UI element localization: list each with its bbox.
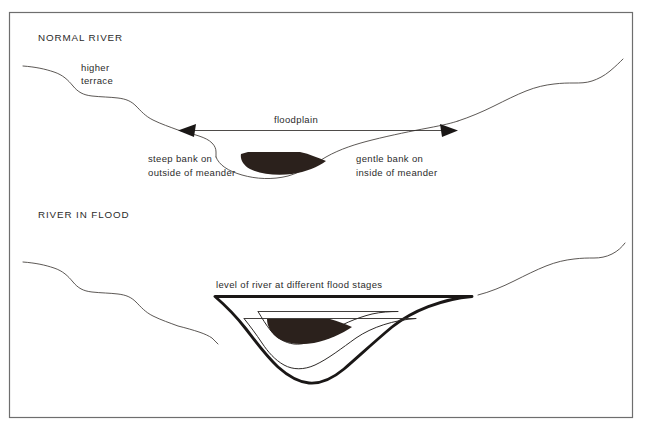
label-higher-terrace-line1: higher: [81, 62, 110, 73]
terrain-right-slope-normal: [458, 59, 623, 121]
label-gentle-bank-line2: inside of meander: [356, 167, 437, 178]
floodplain-extent-arrow: [178, 124, 458, 137]
arrow-head-left-icon: [178, 124, 196, 137]
flood-channel-peak-outline: [215, 297, 472, 384]
heading-river-in-flood: RIVER IN FLOOD: [38, 209, 130, 220]
panel-normal-river: NORMAL RIVER higher terrace floodplain s…: [23, 32, 623, 179]
panel-river-in-flood: RIVER IN FLOOD level of river at differe…: [23, 209, 625, 383]
label-gentle-bank-line1: gentle bank on: [356, 153, 423, 164]
label-higher-terrace-line2: terrace: [81, 75, 113, 86]
label-flood-stages: level of river at different flood stages: [216, 279, 382, 290]
arrow-head-right-icon: [440, 124, 458, 137]
heading-normal-river: NORMAL RIVER: [38, 32, 123, 43]
figure-root: NORMAL RIVER higher terrace floodplain s…: [0, 0, 647, 437]
terrain-right-slope-flood: [478, 243, 625, 295]
water-body-flood: [267, 319, 352, 344]
label-steep-bank-line1: steep bank on: [148, 153, 212, 164]
terrain-left-slope-normal: [23, 66, 216, 157]
label-floodplain: floodplain: [274, 114, 318, 125]
water-body-normal: [241, 152, 326, 175]
terrain-left-slope-flood: [23, 262, 218, 344]
river-cross-section-figure: NORMAL RIVER higher terrace floodplain s…: [0, 0, 647, 437]
label-steep-bank-line2: outside of meander: [148, 167, 236, 178]
